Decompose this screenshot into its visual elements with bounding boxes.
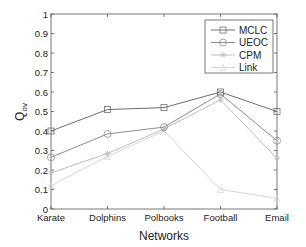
x-tick-label: Email — [265, 212, 289, 223]
x-axis-title: Networks — [139, 229, 189, 243]
y-tick-label: 0.1 — [35, 184, 48, 195]
legend: MCLCUEOCCPMLink — [205, 20, 273, 73]
x-tick-label: Football — [204, 212, 238, 223]
y-axis-title: Qov — [13, 103, 29, 121]
y-tick-label: 0.3 — [35, 145, 48, 156]
x-tick-label: Karate — [37, 212, 65, 223]
x-tick-label: Polbooks — [144, 212, 183, 223]
legend-label: UEOC — [239, 37, 268, 48]
legend-label: CPM — [239, 50, 261, 61]
y-tick-label: 1 — [43, 9, 48, 20]
y-tick-label: 0.5 — [35, 106, 48, 117]
y-tick-label: 0.4 — [35, 126, 48, 137]
x-tick-label: Dolphins — [89, 212, 126, 223]
y-tick-label: 0.8 — [35, 48, 48, 59]
y-tick-label: 0.7 — [35, 67, 48, 78]
y-tick-label: 0.6 — [35, 87, 48, 98]
legend-label: Link — [239, 62, 258, 73]
legend-label: MCLC — [239, 25, 267, 36]
y-tick-label: 0.9 — [35, 28, 48, 39]
line-chart: 00.10.20.30.40.50.60.70.80.91 KarateDolp… — [0, 0, 306, 247]
svg-text:Qov: Qov — [13, 103, 29, 121]
y-tick-label: 0.2 — [35, 165, 48, 176]
